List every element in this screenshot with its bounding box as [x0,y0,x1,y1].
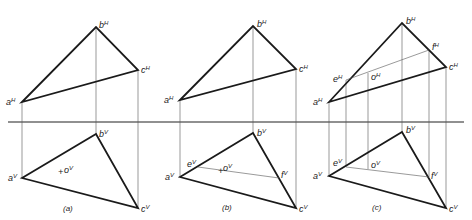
point-o-marker: + [58,167,63,177]
label-aV: aV [313,171,323,181]
label-eH: eH [333,74,343,84]
label-cH: cH [299,64,309,74]
label-cV: cV [299,204,309,214]
label-cV: cV [141,204,151,214]
caption-b: (b) [222,203,232,212]
label-bV: bV [406,125,416,135]
label-oV: oV [64,165,74,175]
label-aH: aH [313,97,323,107]
label-fV: fV [281,170,289,180]
label-oV: oV [371,160,381,170]
triangle-top-view [329,23,446,102]
label-fH: fH [432,42,440,52]
label-fV: fV [431,171,439,181]
label-aH: aH [6,97,16,107]
panel-a: + aH bH cH aV bV cV oV (a) [6,20,151,214]
label-cV: cV [449,204,459,214]
caption-c: (c) [372,203,382,212]
panel-b: + aH bH cH aV bV cV eV oV fV (b) [164,19,309,214]
label-eV: eV [333,158,343,168]
line-ef-front [346,167,429,177]
label-bH: bH [406,16,416,26]
label-bH: bH [257,19,267,29]
panel-c: aH bH cH eH oH fH aV bV cV eV oV fV (c) [313,16,459,214]
label-bV: bV [99,129,109,139]
label-oH: oH [371,72,381,82]
caption-a: (a) [63,204,73,213]
projection-diagram: + aH bH cH aV bV cV oV (a) + aH bH cH aV… [0,0,472,220]
label-bV: bV [257,128,267,138]
triangle-top-view [180,26,296,100]
triangle-top-view [22,27,138,102]
label-bH: bH [99,20,109,30]
label-aV: aV [8,173,18,183]
label-cH: cH [449,62,459,72]
label-aH: aH [164,95,174,105]
triangle-front-view [180,133,296,208]
label-cH: cH [141,65,151,75]
triangle-front-view [329,132,446,208]
triangle-front-view [22,134,138,208]
label-aV: aV [165,172,175,182]
line-ef-front [198,167,279,178]
